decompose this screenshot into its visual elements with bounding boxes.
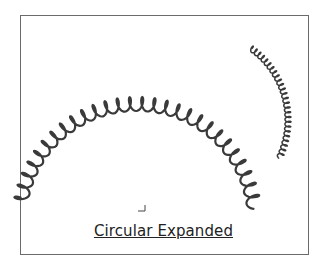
diagram-caption: Circular Expanded [0, 222, 327, 240]
large-arc-spring [14, 97, 259, 209]
origin-axis-icon [137, 204, 147, 212]
small-curl-spring [251, 46, 291, 158]
